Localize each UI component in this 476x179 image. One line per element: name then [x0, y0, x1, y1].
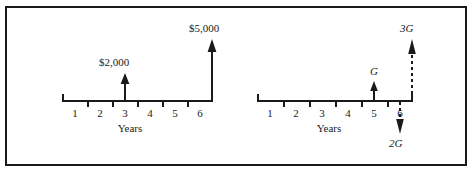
right-arrow-2g-shape	[393, 102, 407, 140]
left-tick-3	[137, 101, 139, 107]
right-axis-start-cap	[257, 94, 259, 102]
left-axis-caption: Years	[107, 122, 153, 134]
left-tick-4	[162, 101, 164, 107]
right-arrow-3g-shape	[405, 38, 419, 102]
right-tick-2	[309, 101, 311, 107]
left-tick-label-3: 3	[118, 107, 132, 119]
right-tick-3	[335, 101, 337, 107]
left-arrow-5000-label: $5,000	[189, 22, 219, 34]
left-tick-label-5: 5	[168, 107, 182, 119]
figure-canvas: 1 2 3 4 5 6 Years $2,000 $5,000	[0, 0, 476, 179]
right-tick-1	[283, 101, 285, 107]
left-tick-label-1: 1	[68, 107, 82, 119]
left-arrow-2000-shape	[118, 72, 132, 104]
left-tick-2	[112, 101, 114, 107]
left-axis-start-cap	[62, 94, 64, 102]
left-tick-1	[87, 101, 89, 107]
right-tick-label-1: 1	[263, 107, 277, 119]
right-arrow-g-label: G	[370, 65, 378, 77]
right-tick-label-3: 3	[315, 107, 329, 119]
right-arrow-3g-label: 3G	[400, 22, 413, 34]
left-tick-label-6: 6	[193, 107, 207, 119]
left-arrow-5000-shape	[205, 38, 219, 102]
right-tick-label-2: 2	[289, 107, 303, 119]
figure-border: 1 2 3 4 5 6 Years $2,000 $5,000	[5, 6, 467, 166]
right-tick-label-4: 4	[341, 107, 355, 119]
right-axis-caption: Years	[306, 122, 352, 134]
right-arrow-2g-label: 2G	[389, 137, 402, 149]
left-arrow-2000-label: $2,000	[99, 56, 129, 68]
right-tick-4	[361, 101, 363, 107]
right-tick-5	[387, 101, 389, 107]
left-tick-label-4: 4	[143, 107, 157, 119]
right-tick-label-5: 5	[367, 107, 381, 119]
left-tick-label-2: 2	[93, 107, 107, 119]
left-tick-5	[187, 101, 189, 107]
left-timeline-panel: 1 2 3 4 5 6 Years $2,000 $5,000	[7, 8, 232, 164]
right-timeline-panel: 1 2 3 4 5 6 Years G 2G	[232, 8, 469, 164]
right-arrow-g-shape	[367, 80, 381, 102]
